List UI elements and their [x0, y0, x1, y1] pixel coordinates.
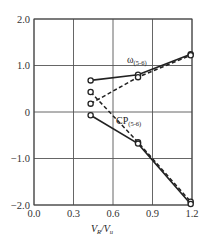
- data-point-marker: [88, 113, 93, 118]
- y-tick-label: 2.0: [17, 14, 30, 25]
- x-tick-label: 0.3: [67, 208, 80, 219]
- y-tick-label: 1.0: [17, 60, 30, 71]
- y-tick-label: −1.0: [11, 153, 30, 164]
- data-point-marker: [88, 101, 93, 106]
- data-point-marker: [188, 53, 193, 58]
- data-point-marker: [135, 75, 140, 80]
- data-point-marker: [88, 89, 93, 94]
- x-tick-label: 0.6: [106, 208, 119, 219]
- x-tick-label: 1.2: [185, 208, 198, 219]
- x-axis-label: VR/Vu: [91, 223, 114, 235]
- data-point-marker: [135, 141, 140, 146]
- data-point-marker: [188, 201, 193, 206]
- line-chart: 2.01.00−1.0−2.0 0.00.30.60.91.2 ω(5-6) C…: [0, 0, 207, 245]
- cp-annotation: CP(5-6): [116, 115, 141, 128]
- x-tick-label: 0.0: [27, 208, 40, 219]
- y-tick-label: 0: [25, 107, 30, 118]
- data-point-marker: [88, 78, 93, 83]
- x-axis-ticks: 0.00.30.60.91.2: [27, 208, 198, 219]
- y-axis-ticks: 2.01.00−1.0−2.0: [11, 14, 30, 211]
- data-series: [88, 52, 193, 207]
- series-line-3: [91, 115, 191, 204]
- grid-lines: [34, 19, 192, 205]
- x-tick-label: 0.9: [146, 208, 159, 219]
